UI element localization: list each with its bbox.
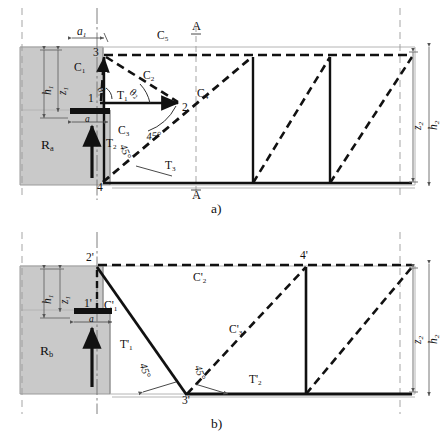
caption-a: a) [211, 202, 222, 216]
label-a1: a1 [77, 26, 86, 39]
bearing-plate-a [70, 108, 110, 114]
label-a-plate: a [85, 115, 90, 125]
section-line-a-a [191, 26, 201, 198]
arc-45-upper [148, 106, 176, 131]
node-label-3-a: 3 [93, 47, 99, 59]
dimension-z2-h2-a [409, 47, 429, 186]
label-C2-a: C2 [143, 70, 154, 83]
label-C3p-b: C'3 [229, 324, 242, 337]
label-T1-a: T1 [117, 90, 128, 103]
support-block-a [20, 47, 110, 185]
strut-diag-b-2 [306, 267, 412, 394]
label-45-upper-a: 45° [146, 131, 162, 143]
panel-b-graphics [0, 224, 447, 448]
node-label-1-a: 1 [88, 93, 94, 105]
node-label-4p-b: 4' [300, 250, 308, 262]
label-C1p-b: C'1 [104, 300, 117, 313]
label-h2-a: h2 [428, 121, 441, 130]
diagram-panel-a: a1 a h1 z1 z2 h2 C1 C2 C3 C4 C5 [0, 0, 447, 224]
label-z1-a: z1 [57, 87, 70, 95]
label-C5-a: C5 [157, 30, 168, 43]
label-T2p-b: T'2 [249, 374, 262, 387]
node-label-3p-b: 3' [182, 395, 190, 407]
strut-C4 [253, 57, 330, 183]
label-h1-a: h1 [42, 86, 55, 95]
panel-a-graphics [0, 0, 447, 224]
dimension-z2-h2-b [409, 264, 429, 396]
label-T2-a: T2 [106, 138, 117, 151]
diagram-panel-b: h1 z1 z2 h2 a C'1 C'2 C'3 T'1 T'2 45° [0, 224, 447, 448]
label-C4-a: C4 [197, 88, 208, 101]
node-label-1p-b: 1' [84, 298, 92, 310]
label-z2-b: z2 [412, 336, 425, 344]
label-z2-a: z2 [412, 122, 425, 130]
node-label-2-a: 2 [182, 102, 188, 114]
label-z1-b: z1 [59, 296, 72, 304]
caption-b: b) [211, 417, 222, 431]
label-a-plate-b: a [89, 315, 94, 325]
arc-theta2 [140, 84, 150, 103]
label-T1p-b: T'1 [120, 339, 133, 352]
label-h1-b: h1 [42, 295, 55, 304]
section-mark-A-bottom: A [192, 189, 201, 202]
node-label-4-a: 4 [97, 182, 103, 194]
label-T3-a: T3 [165, 160, 176, 173]
label-Ra: Ra [41, 138, 54, 153]
label-C3-a: C3 [118, 125, 129, 138]
label-C2p-b: C'2 [193, 272, 206, 285]
label-h2-b: h2 [428, 335, 441, 344]
label-Rb: Rb [40, 344, 53, 359]
figure-root: a1 a h1 z1 z2 h2 C1 C2 C3 C4 C5 [0, 0, 447, 448]
section-mark-A-top: A [192, 20, 201, 33]
node-label-2p-b: 2' [86, 252, 94, 264]
strut-C3 [103, 57, 252, 182]
label-C1-a: C1 [74, 62, 85, 75]
